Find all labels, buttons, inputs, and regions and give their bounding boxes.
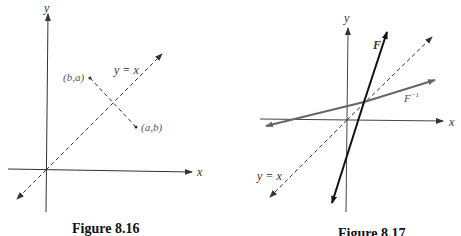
point-a-b-label: (a,b): [141, 121, 162, 134]
figure-8-16: y x y = x (b,a) (a,b) Figure 8.16: [8, 1, 203, 236]
y-equals-x-line-lower: [270, 120, 347, 197]
y-axis-label: y: [43, 1, 50, 15]
point-b-a-label: (b,a): [63, 71, 84, 84]
figure-caption: Figure 8.17: [338, 226, 405, 236]
point-b-a: [88, 76, 91, 79]
y-equals-x-label: y = x: [113, 63, 139, 77]
inverse-function-line-lower: [266, 102, 364, 126]
x-axis-label: x: [196, 165, 203, 179]
function-line-lower: [332, 102, 364, 203]
inverse-function-line: [364, 80, 435, 102]
inverse-function-label: F−1: [403, 91, 419, 104]
figure-8-17: y x y = x F−1 F Figure 8.17: [256, 11, 455, 236]
y-axis: [46, 14, 48, 212]
figure-caption: Figure 8.16: [72, 221, 139, 236]
figures-canvas: y x y = x (b,a) (a,b) Figure 8.16 y x y …: [0, 0, 461, 236]
y-equals-x-label: y = x: [256, 169, 282, 183]
y-equals-x-line-lower: [17, 170, 46, 199]
x-axis: [8, 169, 192, 172]
function-label: F: [372, 38, 381, 52]
y-axis-label: y: [343, 11, 350, 25]
point-a-b: [134, 125, 137, 128]
x-axis-label: x: [448, 115, 455, 129]
y-equals-x-line: [347, 37, 432, 120]
